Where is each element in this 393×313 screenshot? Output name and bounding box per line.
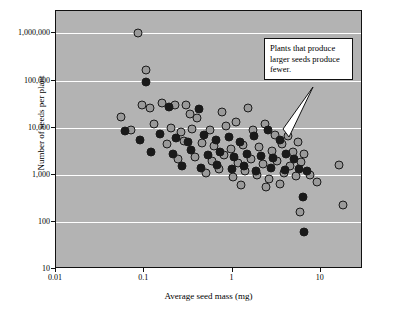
scatter-point — [257, 152, 266, 161]
scatter-point — [197, 163, 206, 172]
y-tick-label: 10 — [0, 264, 50, 273]
scatter-point — [134, 29, 143, 38]
scatter-point — [266, 163, 275, 172]
scatter-point — [244, 104, 253, 113]
scatter-point — [166, 123, 175, 132]
x-tick-label: 0.01 — [48, 273, 62, 282]
scatter-point — [224, 133, 233, 142]
scatter-point — [339, 200, 348, 209]
scatter-point — [120, 127, 129, 136]
scatter-point — [300, 228, 309, 237]
scatter-point — [295, 208, 304, 217]
scatter-point — [217, 107, 226, 116]
y-tick-label: 1,000,000 — [0, 28, 50, 37]
scatter-point — [212, 161, 221, 170]
scatter-point — [255, 143, 264, 152]
gridline — [56, 222, 361, 223]
scatter-point — [303, 167, 312, 176]
scatter-point — [230, 152, 239, 161]
scatter-point — [290, 154, 299, 163]
scatter-point — [235, 137, 244, 146]
scatter-point — [250, 132, 259, 141]
scatter-point — [312, 178, 321, 187]
scatter-point — [136, 135, 145, 144]
scatter-point — [237, 181, 246, 190]
scatter-point — [187, 145, 196, 154]
y-tick-mark — [51, 221, 55, 222]
scatter-point — [269, 153, 278, 162]
scatter-point — [227, 165, 236, 174]
x-axis-label: Average seed mass (mg) — [55, 291, 362, 301]
scatter-point — [162, 140, 171, 149]
scatter-point — [232, 118, 241, 127]
scatter-point — [280, 166, 289, 175]
scatter-point — [142, 77, 151, 86]
x-tick-mark — [320, 268, 321, 272]
x-tick-label: 10 — [316, 273, 324, 282]
scatter-point — [142, 65, 151, 74]
scatter-point — [200, 130, 209, 139]
scatter-point — [275, 135, 284, 144]
y-axis-label: Number of seeds per plant — [36, 38, 46, 208]
scatter-point — [334, 161, 343, 170]
scatter-point — [262, 183, 271, 192]
scatter-point — [263, 125, 272, 134]
scatter-point — [197, 138, 206, 147]
scatter-point — [168, 149, 177, 158]
gridline — [56, 33, 361, 34]
chart-figure: 1,000,000100,00010,0001,00010010 0.010.1… — [0, 0, 393, 313]
scatter-point — [242, 149, 251, 158]
scatter-point — [203, 151, 212, 160]
scatter-point — [150, 119, 159, 128]
scatter-point — [117, 112, 126, 121]
x-tick-mark — [232, 268, 233, 272]
x-tick-mark — [55, 268, 56, 272]
scatter-point — [215, 148, 224, 157]
scatter-point — [164, 102, 173, 111]
gridline — [56, 81, 361, 82]
scatter-point — [193, 114, 202, 123]
scatter-point — [188, 124, 197, 133]
scatter-point — [147, 148, 156, 157]
scatter-point — [298, 193, 307, 202]
scatter-point — [222, 121, 231, 130]
scatter-point — [145, 104, 154, 113]
scatter-point — [195, 104, 204, 113]
y-tick-mark — [51, 174, 55, 175]
y-tick-mark — [51, 80, 55, 81]
scatter-point — [178, 162, 187, 171]
scatter-point — [252, 167, 261, 176]
annotation-callout: Plants that produce larger seeds produce… — [264, 38, 353, 80]
scatter-point — [275, 179, 284, 188]
scatter-point — [212, 135, 221, 144]
x-tick-mark — [143, 268, 144, 272]
scatter-point — [172, 134, 181, 143]
y-tick-mark — [51, 127, 55, 128]
scatter-point — [240, 162, 249, 171]
scatter-point — [155, 129, 164, 138]
x-tick-label: 1 — [230, 273, 234, 282]
scatter-point — [293, 137, 302, 146]
x-tick-label: 0.1 — [138, 273, 148, 282]
y-tick-label: 100 — [0, 216, 50, 225]
y-tick-mark — [51, 32, 55, 33]
